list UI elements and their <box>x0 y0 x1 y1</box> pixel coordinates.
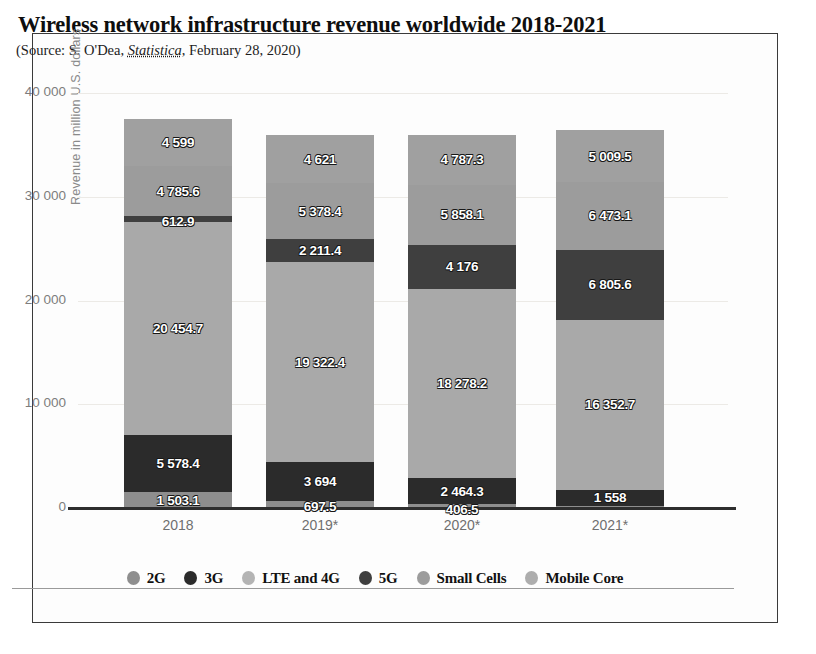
legend-swatch-icon <box>525 571 538 585</box>
y-tick-label: 0 <box>2 499 66 514</box>
bar-segment[interactable]: 6 473.1 <box>556 182 664 249</box>
bar-value-label: 4 621 <box>304 152 336 167</box>
bar-value-label: 1 558 <box>594 490 626 505</box>
y-axis-title: Revenue in million U.S. dollars <box>69 29 83 205</box>
bar-value-label: 4 599 <box>162 135 194 150</box>
bar-segment[interactable]: 20 454.7 <box>124 222 232 434</box>
bar-group[interactable]: 4 787.35 858.14 17618 278.22 464.3406.5 <box>408 135 516 508</box>
y-tick-label: 40 000 <box>2 84 66 99</box>
bar-segment[interactable]: 4 176 <box>408 245 516 288</box>
bar-value-label: 5 578.4 <box>157 456 200 471</box>
x-tick-label: 2019* <box>266 517 374 533</box>
bar-segment[interactable]: 1 503.1 <box>124 492 232 508</box>
legend-label: Mobile Core <box>545 570 623 587</box>
bar-group[interactable]: 4 5994 785.6612.920 454.75 578.41 503.1 <box>124 119 232 508</box>
x-tick-label: 2020* <box>408 517 516 533</box>
x-tick-label: 2018 <box>124 517 232 533</box>
legend-label: LTE and 4G <box>262 570 340 587</box>
chart-source-line: (Source: S. O'Dea, Statistica, February … <box>16 42 716 59</box>
plot-area: Revenue in million U.S. dollars 010 0002… <box>78 93 728 508</box>
bar-value-label: 4 176 <box>446 259 478 274</box>
bar-segment[interactable]: 6 805.6 <box>556 250 664 321</box>
bar-value-label: 20 454.7 <box>153 321 203 336</box>
bar-segment[interactable]: 19 322.4 <box>266 262 374 462</box>
bar-value-label: 16 352.7 <box>585 397 635 412</box>
legend-label: 2G <box>147 570 166 587</box>
legend-label: 5G <box>379 570 398 587</box>
bar-stack: 4 6215 378.42 211.419 322.43 694697.5 <box>266 135 374 508</box>
legend-label: Small Cells <box>437 570 507 587</box>
bar-value-label: 5 858.1 <box>441 207 484 222</box>
bar-segment[interactable]: 4 787.3 <box>408 135 516 185</box>
bar-segment[interactable]: 4 785.6 <box>124 166 232 216</box>
legend-swatch-icon <box>359 571 372 585</box>
legend-swatch-icon <box>184 571 197 585</box>
legend-swatch-icon <box>417 571 430 585</box>
bar-value-label: 4 787.3 <box>441 152 484 167</box>
bar-stack: 4 787.35 858.14 17618 278.22 464.3406.5 <box>408 135 516 508</box>
source-publication: Statistica <box>128 42 182 58</box>
bar-segment[interactable]: 18 278.2 <box>408 289 516 479</box>
bar-value-label: 19 322.4 <box>295 355 345 370</box>
legend-item[interactable]: Small Cells <box>417 570 507 587</box>
bar-value-label: 5 378.4 <box>299 204 342 219</box>
bar-value-label: 3 694 <box>304 474 336 489</box>
bar-value-label: 5 009.5 <box>589 149 632 164</box>
bar-value-label: 6 473.1 <box>589 208 632 223</box>
bar-segment[interactable]: 4 621 <box>266 135 374 183</box>
y-tick-label: 10 000 <box>2 395 66 410</box>
page-title: Wireless network infrastructure revenue … <box>18 12 718 38</box>
bar-stack: 5 009.56 473.16 805.616 352.71 558 <box>556 130 664 508</box>
bar-value-label: 1 503.1 <box>157 493 200 508</box>
bar-value-label: 4 785.6 <box>157 184 200 199</box>
x-tick-label: 2021* <box>556 517 664 533</box>
legend-item[interactable]: LTE and 4G <box>242 570 340 587</box>
bar-value-label: 612.9 <box>162 214 194 229</box>
bar-segment[interactable]: 5 578.4 <box>124 435 232 493</box>
bar-value-label: 406.5 <box>446 502 478 517</box>
bar-group[interactable]: 4 6215 378.42 211.419 322.43 694697.5 <box>266 135 374 508</box>
gridline <box>78 93 728 94</box>
bar-segment[interactable]: 3 694 <box>266 462 374 500</box>
legend-item[interactable]: 5G <box>359 570 398 587</box>
bar-segment[interactable]: 5 858.1 <box>408 185 516 246</box>
legend-item[interactable]: 2G <box>127 570 166 587</box>
bar-segment[interactable]: 5 378.4 <box>266 183 374 239</box>
legend-swatch-icon <box>242 571 255 585</box>
bar-segment[interactable]: 16 352.7 <box>556 320 664 490</box>
legend-swatch-icon <box>127 571 140 585</box>
y-tick-label: 30 000 <box>2 188 66 203</box>
bar-segment[interactable]: 2 464.3 <box>408 478 516 504</box>
legend-label: 3G <box>204 570 223 587</box>
bar-segment[interactable]: 1 558 <box>556 490 664 506</box>
bar-segment[interactable]: 5 009.5 <box>556 130 664 182</box>
bar-value-label: 697.5 <box>304 499 336 514</box>
legend-item[interactable]: 3G <box>184 570 223 587</box>
bar-value-label: 2 464.3 <box>441 484 484 499</box>
bar-group[interactable]: 5 009.56 473.16 805.616 352.71 558 <box>556 130 664 508</box>
bar-stack: 4 5994 785.6612.920 454.75 578.41 503.1 <box>124 119 232 508</box>
source-suffix: , February 28, 2020) <box>182 42 301 58</box>
bar-value-label: 6 805.6 <box>589 277 632 292</box>
bar-segment[interactable]: 2 211.4 <box>266 239 374 262</box>
bar-value-label: 2 211.4 <box>299 243 341 258</box>
legend-divider <box>12 588 734 589</box>
bar-value-label: 18 278.2 <box>437 376 487 391</box>
y-tick-label: 20 000 <box>2 292 66 307</box>
bar-segment[interactable]: 4 599 <box>124 119 232 167</box>
legend-item[interactable]: Mobile Core <box>525 570 623 587</box>
